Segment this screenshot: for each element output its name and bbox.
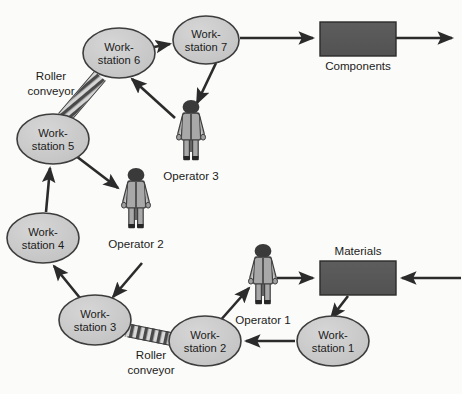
diagram-canvas: Components Materials Work- station 1 Wor… [0, 0, 462, 394]
node-ws6-line1: Work- [104, 41, 134, 53]
operator-1-label: Operator 1 [235, 313, 290, 326]
node-ws6[interactable]: Work- station 6 [83, 28, 155, 78]
node-ws5-line2: station 5 [32, 140, 74, 152]
box-components-label: Components [325, 59, 391, 72]
node-ws7-line1: Work- [191, 28, 221, 40]
process-flow-diagram: Components Materials Work- station 1 Wor… [0, 0, 462, 394]
node-ws2-line1: Work- [190, 329, 220, 341]
node-ws1-line1: Work- [318, 329, 348, 341]
conveyor-bottom-label-line1: Roller [136, 348, 166, 361]
node-ws6-line2: station 6 [98, 54, 140, 66]
node-ws1[interactable]: Work- station 1 [297, 316, 369, 366]
conveyor-top-label-line2: conveyor [27, 84, 74, 97]
node-ws4-line1: Work- [28, 226, 58, 238]
box-components[interactable]: Components [320, 22, 396, 72]
node-ws3-line1: Work- [80, 308, 110, 320]
box-materials-label: Materials [334, 244, 381, 257]
node-ws5[interactable]: Work- station 5 [17, 114, 89, 164]
node-ws4-line2: station 4 [22, 239, 64, 251]
conveyor-bottom-label-line2: conveyor [127, 363, 174, 376]
node-ws3-line2: station 3 [74, 321, 116, 333]
node-ws4[interactable]: Work- station 4 [7, 213, 79, 263]
node-ws1-line2: station 1 [312, 342, 354, 354]
node-ws2[interactable]: Work- station 2 [169, 316, 241, 366]
node-ws5-line1: Work- [38, 127, 68, 139]
operator-3-label: Operator 3 [163, 169, 218, 182]
node-ws7-line2: station 7 [185, 41, 227, 53]
operator-2-label: Operator 2 [108, 237, 163, 250]
node-ws7[interactable]: Work- station 7 [173, 16, 239, 64]
conveyor-top-label-line1: Roller [36, 69, 66, 82]
node-ws2-line2: station 2 [184, 342, 226, 354]
node-ws3[interactable]: Work- station 3 [59, 295, 131, 345]
